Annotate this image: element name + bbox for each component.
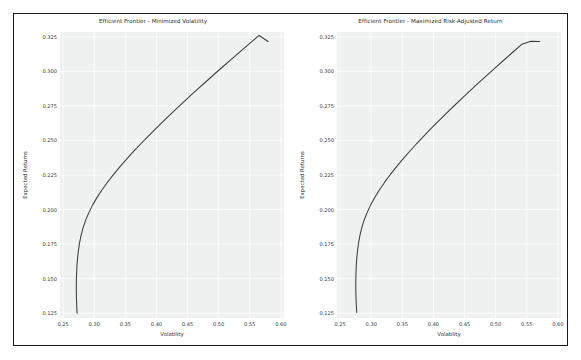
y-axis-tick-label: 0.175 bbox=[319, 241, 334, 247]
chart-title-right: Efficient Frontier - Maximized Risk-Adju… bbox=[292, 18, 569, 24]
x-axis-tick-label: 0.25 bbox=[57, 321, 68, 327]
y-axis-tick-label: 0.300 bbox=[42, 68, 57, 74]
x-axis-tick-label: 0.35 bbox=[397, 321, 408, 327]
plot-area-left bbox=[60, 32, 284, 318]
y-axis-tick-label: 0.150 bbox=[319, 276, 334, 282]
y-axis-label-left: Expected Returns bbox=[22, 151, 28, 199]
frontier-series-path bbox=[356, 41, 540, 312]
y-axis-tick-label: 0.250 bbox=[42, 137, 57, 143]
x-axis-tick-label: 0.55 bbox=[244, 321, 255, 327]
plot-area-right bbox=[337, 32, 561, 318]
x-axis-tick-label: 0.60 bbox=[275, 321, 286, 327]
figure-canvas: Efficient Frontier - Minimized Volatilit… bbox=[13, 13, 568, 346]
y-axis-tick-label: 0.200 bbox=[319, 207, 334, 213]
x-axis-tick-label: 0.45 bbox=[182, 321, 193, 327]
chart-panel-maximized-risk-adjusted-return: Efficient Frontier - Maximized Risk-Adju… bbox=[292, 14, 569, 345]
x-axis-ticks-left: 0.250.300.350.400.450.500.550.60 bbox=[60, 321, 284, 331]
efficient-frontier-curve-left bbox=[60, 32, 284, 318]
x-axis-tick-label: 0.55 bbox=[521, 321, 532, 327]
x-axis-ticks-right: 0.250.300.350.400.450.500.550.60 bbox=[337, 321, 561, 331]
x-axis-tick-label: 0.40 bbox=[151, 321, 162, 327]
y-axis-tick-label: 0.150 bbox=[42, 276, 57, 282]
y-axis-label-right: Expected Returns bbox=[299, 151, 305, 199]
y-axis-tick-label: 0.175 bbox=[42, 241, 57, 247]
y-axis-tick-label: 0.300 bbox=[319, 68, 334, 74]
y-axis-tick-label: 0.125 bbox=[319, 310, 334, 316]
chart-title-left: Efficient Frontier - Minimized Volatilit… bbox=[14, 18, 292, 24]
x-axis-tick-label: 0.60 bbox=[552, 321, 563, 327]
x-axis-tick-label: 0.35 bbox=[120, 321, 131, 327]
x-axis-tick-label: 0.30 bbox=[89, 321, 100, 327]
y-axis-tick-label: 0.325 bbox=[42, 34, 57, 40]
y-axis-tick-label: 0.200 bbox=[42, 207, 57, 213]
x-axis-label-left: Volatility bbox=[60, 331, 284, 337]
x-axis-tick-label: 0.50 bbox=[490, 321, 501, 327]
y-axis-tick-label: 0.325 bbox=[319, 34, 334, 40]
y-axis-tick-label: 0.225 bbox=[319, 172, 334, 178]
y-axis-tick-label: 0.225 bbox=[42, 172, 57, 178]
y-axis-tick-label: 0.275 bbox=[42, 103, 57, 109]
x-axis-tick-label: 0.30 bbox=[366, 321, 377, 327]
x-axis-tick-label: 0.25 bbox=[334, 321, 345, 327]
y-axis-ticks-left: 0.1250.1500.1750.2000.2250.2500.2750.300… bbox=[31, 32, 57, 318]
frontier-series-path bbox=[76, 35, 268, 313]
x-axis-tick-label: 0.50 bbox=[213, 321, 224, 327]
y-axis-tick-label: 0.250 bbox=[319, 137, 334, 143]
y-axis-ticks-right: 0.1250.1500.1750.2000.2250.2500.2750.300… bbox=[308, 32, 334, 318]
x-axis-tick-label: 0.40 bbox=[428, 321, 439, 327]
y-axis-tick-label: 0.275 bbox=[319, 103, 334, 109]
y-axis-tick-label: 0.125 bbox=[42, 310, 57, 316]
x-axis-tick-label: 0.45 bbox=[459, 321, 470, 327]
efficient-frontier-curve-right bbox=[337, 32, 561, 318]
chart-panel-minimized-volatility: Efficient Frontier - Minimized Volatilit… bbox=[14, 14, 292, 345]
x-axis-label-right: Volatility bbox=[337, 331, 561, 337]
